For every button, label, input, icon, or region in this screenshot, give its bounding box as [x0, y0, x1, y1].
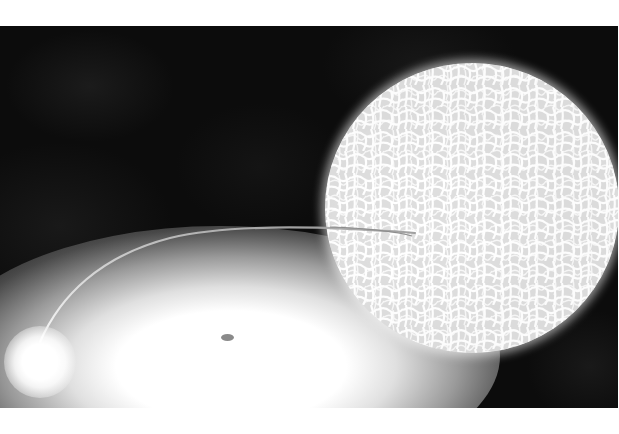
image-canvas: Artist illustration of a binary star sys… — [0, 0, 619, 434]
companion-star — [4, 326, 76, 398]
space-scene: Artist illustration of a binary star sys… — [0, 26, 618, 408]
image-alt-text: Artist illustration of a binary star sys… — [0, 26, 1, 27]
accretion-disk-center — [221, 334, 234, 341]
giant-star — [325, 63, 618, 353]
giant-star-surface-texture — [325, 63, 618, 353]
